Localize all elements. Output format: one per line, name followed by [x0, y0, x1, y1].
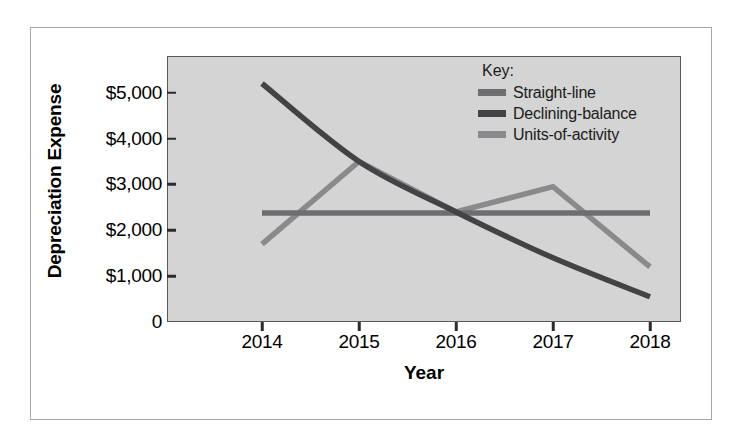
- x-axis-tick-label: 2017: [513, 331, 593, 353]
- y-axis-tick-label: $2,000: [66, 219, 162, 241]
- x-axis-tick-mark: [552, 322, 555, 331]
- y-axis-tick-mark: [167, 183, 176, 186]
- legend-item: Declining-balance: [478, 103, 678, 124]
- legend-item-label: Straight-line: [513, 84, 596, 102]
- y-axis-tick-label: $5,000: [66, 82, 162, 104]
- legend-swatch-icon: [478, 89, 506, 96]
- x-axis-tick-label: 2015: [319, 331, 399, 353]
- x-axis-tick-label: 2016: [416, 331, 496, 353]
- y-axis-tick-label: $3,000: [66, 173, 162, 195]
- legend-items: Straight-lineDeclining-balanceUnits-of-a…: [478, 82, 678, 145]
- x-axis-tick-label: 2014: [222, 331, 302, 353]
- x-axis-title: Year: [167, 362, 681, 384]
- y-axis-tick-mark: [167, 91, 176, 94]
- x-axis-tick-mark: [455, 322, 458, 331]
- x-axis-tick-mark: [649, 322, 652, 331]
- y-axis-tick-label: $4,000: [66, 128, 162, 150]
- legend-item-label: Declining-balance: [513, 105, 637, 123]
- y-axis-tick-mark: [167, 229, 176, 232]
- legend-swatch-icon: [478, 131, 506, 138]
- legend-swatch-icon: [478, 110, 506, 117]
- y-axis-tick-mark: [167, 275, 176, 278]
- y-axis-tick-labels: 0$1,000$2,000$3,000$4,000$5,000: [62, 0, 162, 441]
- legend-item-label: Units-of-activity: [513, 126, 619, 144]
- x-axis-tick-label: 2018: [610, 331, 690, 353]
- legend-title: Key:: [482, 62, 678, 80]
- legend: Key: Straight-lineDeclining-balanceUnits…: [478, 62, 678, 145]
- y-axis-tick-label: $1,000: [66, 265, 162, 287]
- chart-page: Depreciation Expense 0$1,000$2,000$3,000…: [0, 0, 746, 441]
- y-axis-tick-label: 0: [66, 311, 162, 333]
- y-axis-tick-mark: [167, 137, 176, 140]
- legend-item: Straight-line: [478, 82, 678, 103]
- x-axis-tick-mark: [358, 322, 361, 331]
- x-axis-tick-mark: [261, 322, 264, 331]
- legend-item: Units-of-activity: [478, 124, 678, 145]
